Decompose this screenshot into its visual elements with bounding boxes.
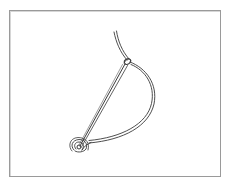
needle-thread-illustration xyxy=(0,0,234,188)
thread-tail xyxy=(114,31,129,60)
thread-arc xyxy=(89,62,155,143)
